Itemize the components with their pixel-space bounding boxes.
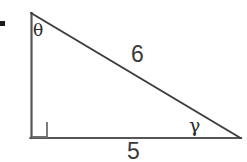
angle-label-theta: θ <box>33 22 43 39</box>
side-label-base: 5 <box>127 140 140 162</box>
side-label-hypotenuse: 6 <box>131 43 144 66</box>
right-angle-marker-icon <box>32 122 47 137</box>
angle-label-gamma: γ <box>189 116 200 135</box>
triangle-figure: θ γ 6 5 <box>0 0 247 162</box>
side-hypotenuse <box>31 13 241 138</box>
